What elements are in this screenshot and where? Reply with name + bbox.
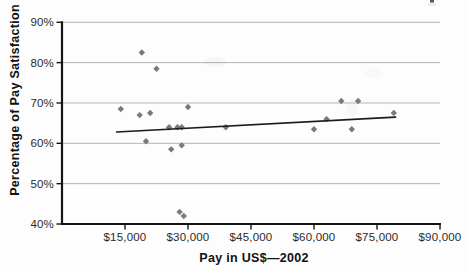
x-tick-label: $45,000 [230,231,273,243]
y-tick-label: 50% [30,178,54,190]
x-axis-title: Pay in US$—2002 [199,251,308,265]
scan-artifact [365,68,383,78]
data-point-marker [223,124,229,130]
x-tick-label: $75,000 [356,231,399,243]
y-axis-title: Percentage of Pay Satisfaction [8,4,22,196]
data-point-marker [349,126,355,132]
data-point-marker [185,104,191,110]
scan-artifact [430,0,434,3]
data-point-marker [118,106,124,112]
x-tick-label: $60,000 [293,231,336,243]
x-tick-label: $30,000 [167,231,210,243]
y-tick-label: 40% [30,218,54,230]
data-point-marker [153,65,159,71]
scatter-chart-figure: 40%50%60%70%80%90%$15,000$30,000$45,000$… [0,0,468,271]
y-tick-label: 60% [30,137,54,149]
chart-canvas: 40%50%60%70%80%90%$15,000$30,000$45,000$… [0,0,468,271]
data-point-marker [391,110,397,116]
data-point-marker [311,126,317,132]
data-point-marker [139,49,145,55]
x-tick-label: $90,000 [419,231,462,243]
scan-artifact [428,3,436,6]
data-point-marker [176,209,182,215]
x-tick-label: $15,000 [104,231,147,243]
data-point-marker [137,112,143,118]
data-point-marker [168,146,174,152]
y-tick-label: 70% [30,97,54,109]
y-tick-label: 80% [30,57,54,69]
data-point-marker [147,110,153,116]
y-tick-label: 90% [30,16,54,28]
data-point-marker [181,213,187,219]
scan-artifact [204,57,226,67]
